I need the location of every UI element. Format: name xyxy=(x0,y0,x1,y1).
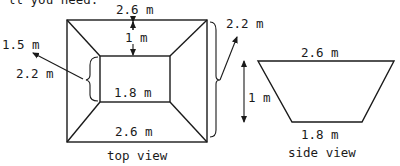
top-view-caption: top view xyxy=(107,148,168,163)
outer-side-arrow-icon xyxy=(220,37,237,80)
outer-side-brace xyxy=(210,22,220,137)
slant-label: 1.5 m xyxy=(2,37,40,52)
inner-side-brace xyxy=(86,57,98,101)
inner-side-label: 2.2 m xyxy=(16,66,54,81)
side-view-caption: side view xyxy=(288,145,356,160)
cut-off-header-text: ll you need. xyxy=(8,0,98,7)
side-view: 2.6 m 1 m 1.8 m side view xyxy=(244,45,394,160)
inner-bottom-label: 1.8 m xyxy=(114,85,152,100)
outer-top-label: 2.6 m xyxy=(116,2,154,17)
edge-bottom-left xyxy=(67,102,100,142)
top-view: 2.6 m 1 m 1.8 m 2.6 m 1.5 m 2.2 m 2.2 m … xyxy=(2,2,264,163)
side-top-label: 2.6 m xyxy=(301,45,339,60)
outer-side-label: 2.2 m xyxy=(226,16,264,31)
outer-bottom-label: 2.6 m xyxy=(115,124,153,139)
edge-top-left xyxy=(67,20,100,56)
edge-top-right xyxy=(170,20,207,56)
diagram-canvas: ll you need. 2.6 m 1 m 1.8 m 2.6 m 1.5 m… xyxy=(0,0,400,166)
depth-label: 1 m xyxy=(125,30,148,45)
side-bottom-label: 1.8 m xyxy=(301,127,339,142)
edge-bottom-right xyxy=(170,102,207,142)
side-height-label: 1 m xyxy=(248,90,271,105)
trapezoid xyxy=(258,61,394,122)
